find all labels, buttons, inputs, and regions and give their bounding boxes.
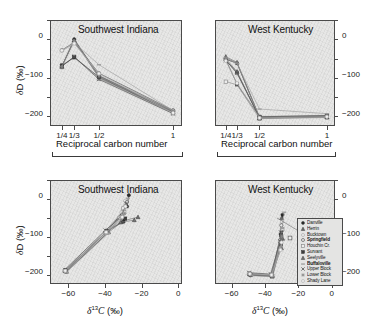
ruler-right-end xyxy=(335,152,336,157)
ruler-left-start xyxy=(52,152,53,157)
series-line xyxy=(250,225,281,276)
xtick-label: −60 xyxy=(224,289,240,298)
xaxis-title-bottom-right: δ13C (‰) xyxy=(252,305,288,316)
legend-label: Seelyville xyxy=(307,255,325,261)
ytick-label: −100 xyxy=(342,229,367,238)
series-line xyxy=(249,232,281,274)
ytick-label: 0 xyxy=(342,191,367,200)
series-line xyxy=(249,222,282,275)
series-line xyxy=(251,218,282,276)
legend: DanvilleHerrinBucktownSpringfieldHouchin… xyxy=(297,218,343,286)
ytick xyxy=(335,180,338,181)
figure-root: Southwest Indiana 1/41/31/210−100−200 Re… xyxy=(0,0,367,328)
ytick xyxy=(335,199,338,200)
xtick-label: −20 xyxy=(290,289,306,298)
ruler-left-end xyxy=(182,152,183,157)
ruler-left xyxy=(52,156,182,157)
series-line xyxy=(250,215,283,276)
panel-title-bottom-right: West Kentucky xyxy=(248,184,313,195)
legend-label: Herrin xyxy=(307,226,319,232)
xtick xyxy=(232,284,233,288)
xtick xyxy=(265,284,266,288)
ytick-label: −200 xyxy=(342,267,367,276)
legend-marker-icon xyxy=(299,278,307,284)
xtick-label: −40 xyxy=(257,289,273,298)
ruler-right xyxy=(217,156,335,157)
legend-label: Shady Lane xyxy=(307,278,331,284)
ruler-right-start xyxy=(217,152,218,157)
xtick-label: 0 xyxy=(324,289,340,298)
legend-item[interactable]: Shady Lane xyxy=(299,278,340,284)
